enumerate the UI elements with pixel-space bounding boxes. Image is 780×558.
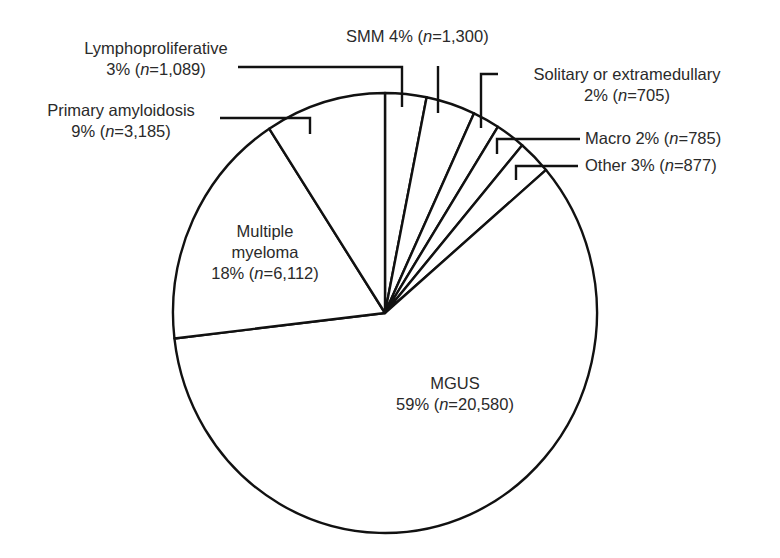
label-lympho-name: Lymphoproliferative — [66, 38, 246, 59]
label-mgus: MGUS 59% (n=20,580) — [370, 373, 540, 415]
label-mm-value: 18% (n=6,112) — [190, 263, 340, 284]
label-macro: Macro 2% (n=785) — [585, 128, 721, 149]
label-amyloid-value: 9% (n=3,185) — [26, 121, 216, 142]
pie-slices — [173, 93, 597, 533]
label-smm: SMM 4% (n=1,300) — [346, 26, 489, 47]
label-lympho-value: 3% (n=1,089) — [66, 59, 246, 80]
label-mgus-value: 59% (n=20,580) — [370, 394, 540, 415]
label-mm-name2: myeloma — [190, 242, 340, 263]
label-lymphoproliferative: Lymphoproliferative 3% (n=1,089) — [66, 38, 246, 80]
label-amyloid-name: Primary amyloidosis — [26, 100, 216, 121]
label-solitary: Solitary or extramedullary 2% (n=705) — [502, 64, 752, 106]
label-mm-name1: Multiple — [190, 221, 340, 242]
label-primary-amyloidosis: Primary amyloidosis 9% (n=3,185) — [26, 100, 216, 142]
label-mgus-name: MGUS — [370, 373, 540, 394]
label-solitary-value: 2% (n=705) — [502, 85, 752, 106]
label-solitary-name: Solitary or extramedullary — [502, 64, 752, 85]
label-multiple-myeloma: Multiple myeloma 18% (n=6,112) — [190, 221, 340, 284]
label-other: Other 3% (n=877) — [585, 155, 717, 176]
